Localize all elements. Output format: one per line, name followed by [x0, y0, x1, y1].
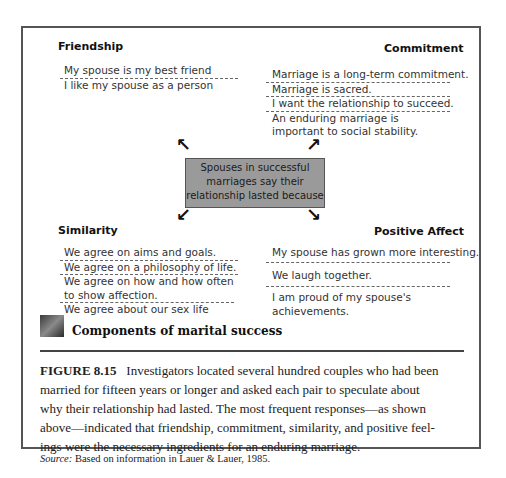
source-label: Source: [40, 453, 72, 464]
list-item: We agree about our sex life [60, 303, 238, 317]
heading-friendship: Friendship [58, 40, 123, 53]
figure-source: Source: Based on information in Lauer & … [40, 453, 270, 464]
divider [40, 350, 464, 352]
list-item: We laugh together. [266, 269, 450, 288]
list-item: We agree on aims and goals. [60, 246, 238, 261]
caption-line: Investigators located several hundred co… [126, 363, 438, 378]
caption-line: why their relationship had lasted. The m… [40, 399, 470, 418]
figure-title: Components of marital success [72, 324, 282, 338]
list-positive-affect: My spouse has grown more interesting. We… [266, 246, 450, 318]
source-text: Based on information in Lauer & Lauer, 1… [75, 453, 270, 464]
list-commitment: Marriage is a long-term commitment. Marr… [266, 68, 450, 139]
list-item: Marriage is sacred. [266, 83, 450, 98]
center-box: Spouses in successful marriages say thei… [185, 158, 325, 208]
arrow-down-right-icon: ↘ [306, 206, 321, 224]
list-similarity: We agree on aims and goals. We agree on … [60, 246, 238, 317]
list-friendship: My spouse is my best friend I like my sp… [60, 64, 238, 92]
figure-caption: FIGURE 8.15 Investigators located severa… [40, 361, 470, 456]
figure-label: FIGURE 8.15 [40, 363, 117, 378]
heading-similarity: Similarity [58, 224, 118, 237]
list-item: My spouse is my best friend [60, 64, 238, 79]
list-item: We agree on how and how often to show af… [60, 275, 234, 303]
list-item: I want the relationship to succeed. [266, 97, 450, 112]
heading-positive-affect: Positive Affect [374, 225, 464, 238]
arrow-down-left-icon: ↙ [176, 206, 191, 224]
caption-line: above—indicated that friendship, commitm… [40, 418, 470, 437]
caption-line: married for fifteen years or longer and … [40, 380, 470, 399]
list-item: I like my spouse as a person [60, 79, 238, 93]
photo-thumbnail-icon [40, 315, 64, 337]
list-item: We agree on a philosophy of life. [60, 261, 238, 276]
arrow-up-left-icon: ↖ [176, 136, 191, 154]
list-item: My spouse has grown more interesting. [266, 246, 450, 263]
list-item: Marriage is a long-term commitment. [266, 68, 450, 83]
heading-commitment: Commitment [384, 42, 464, 55]
list-item: I am proud of my spouse's achievements. [266, 291, 422, 318]
list-item: An enduring marriage is important to soc… [266, 112, 444, 139]
arrow-up-right-icon: ↗ [306, 136, 321, 154]
